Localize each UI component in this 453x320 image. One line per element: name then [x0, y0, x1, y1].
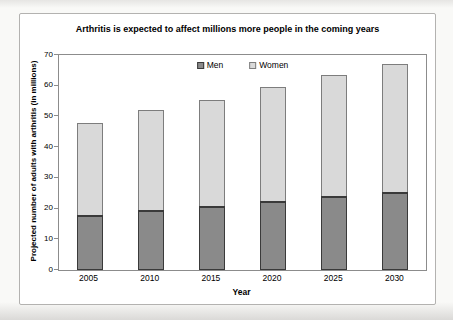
bar-women-2010 — [138, 110, 164, 210]
plot-area: Men Women — [58, 54, 427, 271]
y-tick-mark-10 — [54, 238, 58, 239]
bar-men-2020 — [260, 201, 286, 270]
y-tick-mark-0 — [54, 269, 58, 270]
y-tick-label-40: 40 — [25, 142, 53, 151]
bar-women-2005 — [77, 123, 103, 215]
legend-women-label: Women — [259, 60, 288, 70]
x-tick-label-2010: 2010 — [130, 273, 170, 283]
bar-women-2030 — [382, 64, 408, 191]
x-tick-label-2030: 2030 — [374, 273, 414, 283]
y-tick-mark-60 — [54, 85, 58, 86]
legend-item-men: Men — [197, 60, 224, 70]
y-tick-label-60: 60 — [25, 80, 53, 89]
legend-men-label: Men — [207, 60, 224, 70]
y-tick-mark-40 — [54, 146, 58, 147]
y-tick-label-70: 70 — [25, 50, 53, 59]
bar-women-2025 — [321, 75, 347, 196]
bar-men-2025 — [321, 196, 347, 270]
x-tick-label-2020: 2020 — [252, 273, 292, 283]
y-tick-label-30: 30 — [25, 172, 53, 181]
bar-men-2005 — [77, 215, 103, 270]
legend: Men Women — [197, 60, 289, 70]
y-tick-mark-20 — [54, 208, 58, 209]
chart-title: Arthritis is expected to affect millions… — [68, 23, 388, 35]
x-axis-title: Year — [58, 287, 425, 297]
bar-men-2015 — [199, 206, 225, 271]
legend-women-swatch-icon — [249, 62, 256, 69]
y-tick-mark-30 — [54, 177, 58, 178]
y-tick-label-20: 20 — [25, 203, 53, 212]
y-tick-label-10: 10 — [25, 234, 53, 243]
bar-men-2030 — [382, 192, 408, 270]
legend-item-women: Women — [249, 60, 288, 70]
y-tick-mark-70 — [54, 54, 58, 55]
legend-men-swatch-icon — [197, 62, 204, 69]
y-tick-label-0: 0 — [25, 265, 53, 274]
chart-figure: Arthritis is expected to affect millions… — [19, 13, 436, 305]
y-tick-label-50: 50 — [25, 111, 53, 120]
x-tick-label-2005: 2005 — [69, 273, 109, 283]
bar-men-2010 — [138, 210, 164, 270]
bar-women-2015 — [199, 100, 225, 206]
bar-women-2020 — [260, 87, 286, 201]
x-tick-label-2025: 2025 — [313, 273, 353, 283]
y-axis-title: Projected number of adults with arthriti… — [29, 61, 38, 262]
x-tick-label-2015: 2015 — [191, 273, 231, 283]
y-tick-mark-50 — [54, 115, 58, 116]
